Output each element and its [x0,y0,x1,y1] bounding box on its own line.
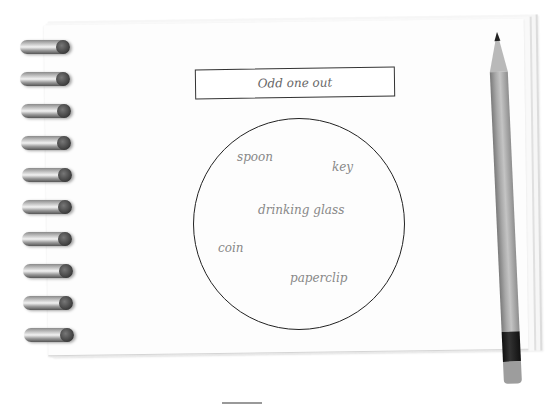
binding-ring-icon [22,200,72,214]
title-box: Odd one out [195,67,395,100]
pencil-lead [494,32,500,41]
binding-ring-icon [22,232,72,246]
word-coin: coin [218,241,244,255]
binding-ring-icon [21,136,71,150]
binding-ring-icon [20,40,70,54]
worksheet-title: Odd one out [258,75,333,90]
answer-circle [193,118,405,330]
binding-ring-icon [20,72,70,86]
binding-ring-icon [23,264,73,278]
word-key: key [332,160,353,174]
shadow-mark [222,402,262,404]
word-spoon: spoon [237,150,273,164]
binding-ring-icon [23,296,73,310]
binding-ring-icon [21,104,71,118]
word-paperclip: paperclip [290,271,347,285]
pencil-ferrule [502,331,521,362]
pencil-eraser [503,361,522,384]
binding-ring-icon [24,328,74,342]
binding-ring-icon [22,168,72,182]
word-drinking-glass: drinking glass [258,203,344,217]
